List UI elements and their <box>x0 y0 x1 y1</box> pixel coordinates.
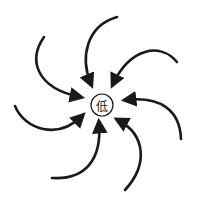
center-label: 低 <box>91 94 113 116</box>
arrow-bottom-right-icon <box>118 120 141 190</box>
low-pressure-diagram: 低 <box>0 0 199 205</box>
arrow-left-icon <box>15 106 82 130</box>
arrow-top-left-icon <box>36 37 80 97</box>
arrow-bottom-icon <box>52 123 99 178</box>
arrow-top-icon <box>86 17 117 84</box>
arrow-top-right-icon <box>113 51 177 84</box>
